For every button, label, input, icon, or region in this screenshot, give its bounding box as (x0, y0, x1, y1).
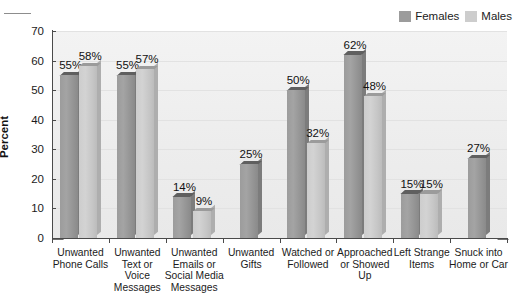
bar-front-face (193, 211, 211, 238)
bar-front-face (287, 90, 305, 238)
bar-front-face (117, 75, 135, 238)
category-label-line: Snuck into (444, 247, 514, 259)
bar-value-label: 57% (136, 53, 159, 65)
bar-value-label: 27% (467, 142, 490, 154)
bar-side-face (97, 60, 101, 235)
bar-value-label: 9% (196, 195, 213, 207)
bar-side-face (325, 137, 329, 235)
bar-front-face (307, 143, 325, 238)
y-tick-mark (52, 61, 56, 62)
bar-value-label: 48% (363, 80, 386, 92)
category-label-line: Messages (159, 282, 229, 294)
bar-females (287, 90, 305, 238)
legend-label-females: Females (415, 10, 459, 22)
y-tick-label: 50 (14, 84, 44, 96)
bar-males (307, 143, 325, 238)
bar-value-label: 32% (306, 127, 329, 139)
chart-legend: Females Males (399, 10, 512, 22)
y-axis-title: Percent (0, 116, 10, 158)
bar-side-face (258, 158, 262, 235)
x-tick-mark (223, 238, 224, 243)
y-tick-label: 30 (14, 143, 44, 155)
x-tick-mark (52, 238, 53, 243)
bar-males (193, 211, 211, 238)
bar-value-label: 14% (173, 181, 196, 193)
bar-front-face (420, 194, 438, 238)
category-label-line: Home or Car (444, 259, 514, 271)
x-tick-mark (393, 238, 394, 243)
y-tick-mark (52, 149, 56, 150)
y-tick-mark (52, 31, 56, 32)
bar-side-face (486, 152, 490, 235)
bar-males (364, 96, 382, 238)
y-tick-mark (52, 120, 56, 121)
bar-front-face (79, 66, 97, 238)
x-tick-mark (109, 238, 110, 243)
bar-front-face (364, 96, 382, 238)
females-swatch-icon (399, 11, 411, 22)
x-tick-mark (280, 238, 281, 243)
category-label-line: Social Media (159, 270, 229, 282)
bar-value-label: 58% (79, 50, 102, 62)
y-tick-label: 20 (14, 173, 44, 185)
bar-females (468, 158, 486, 238)
bar-front-face (344, 55, 362, 238)
legend-item-males: Males (465, 10, 512, 22)
y-tick-mark (52, 208, 56, 209)
males-swatch-icon (465, 11, 477, 22)
bar-front-face (240, 164, 258, 238)
y-tick-label: 70 (14, 25, 44, 37)
legend-label-males: Males (481, 10, 512, 22)
scan-artifact-line (4, 13, 31, 14)
y-tick-mark (52, 179, 56, 180)
bar-front-face (401, 194, 419, 238)
bar-front-face (173, 197, 191, 238)
x-axis-category-label: Snuck intoHome or Car (444, 247, 514, 270)
bar-front-face (60, 75, 78, 238)
bar-males (136, 69, 154, 238)
bar-value-label: 50% (287, 74, 310, 86)
x-tick-mark (166, 238, 167, 243)
gridline (52, 31, 507, 32)
bar-females (240, 164, 258, 238)
bar-females (401, 194, 419, 238)
y-tick-label: 10 (14, 202, 44, 214)
legend-item-females: Females (399, 10, 459, 22)
y-tick-mark (52, 90, 56, 91)
y-tick-label: 40 (14, 114, 44, 126)
x-tick-mark (336, 238, 337, 243)
category-label-line: Up (330, 270, 400, 282)
bar-value-label: 25% (240, 148, 263, 160)
bar-chart: Females Males Percent 010203040506070 55… (0, 0, 520, 305)
bar-value-label: 15% (420, 178, 443, 190)
x-tick-mark (507, 238, 508, 243)
bar-females (60, 75, 78, 238)
bar-females (173, 197, 191, 238)
bar-side-face (438, 188, 442, 235)
bar-value-label: 62% (344, 39, 367, 51)
bar-side-face (382, 90, 386, 235)
bar-males (79, 66, 97, 238)
bar-front-face (136, 69, 154, 238)
bar-females (117, 75, 135, 238)
bar-females (344, 55, 362, 238)
bar-side-face (154, 63, 158, 235)
bar-front-face (468, 158, 486, 238)
x-tick-mark (450, 238, 451, 243)
bar-males (420, 194, 438, 238)
y-tick-label: 60 (14, 55, 44, 67)
y-tick-label: 0 (14, 232, 44, 244)
